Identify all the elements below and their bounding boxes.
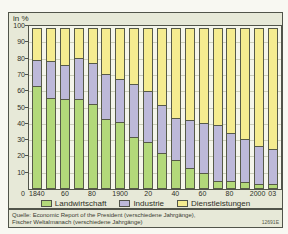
bar-1970-industrie-segment — [213, 125, 223, 182]
x-axis-label-1840: 1840 — [29, 190, 45, 198]
x-axis-label-2000: 2000 — [250, 190, 266, 198]
bar-1980-industrie-segment — [226, 133, 236, 182]
bar-1840 — [32, 28, 42, 189]
y-axis-label-90: 90 — [9, 38, 25, 45]
source-box: Quelle: Economic Report of the President… — [8, 209, 283, 228]
bar-1840-industrie-segment — [32, 60, 42, 88]
bar-1850-dienstleistungen-segment — [46, 28, 56, 62]
x-axis-label-20: 20 — [141, 190, 155, 198]
y-axis-tick-10 — [25, 172, 28, 173]
bar-1930 — [157, 28, 167, 189]
bar-1990 — [240, 28, 250, 189]
bar-1930-industrie-segment — [157, 105, 167, 154]
bar-2000 — [254, 28, 264, 189]
source-line-1: Quelle: Economic Report of the President… — [12, 212, 282, 219]
bar-1930-landwirtschaft-segment — [157, 153, 167, 189]
bar-1870-industrie-segment — [74, 58, 84, 100]
bar-1910 — [129, 28, 139, 189]
bar-slot-1840 — [30, 26, 44, 189]
bar-slot-1850 — [44, 26, 58, 189]
legend-label-landwirtschaft: Landwirtschaft — [55, 199, 107, 208]
bar-slot-1950 — [183, 26, 197, 189]
bar-1990-industrie-segment — [240, 139, 250, 183]
bar-slot-1920 — [141, 26, 155, 189]
x-axis-label-empty — [72, 190, 86, 198]
bar-2000-dienstleistungen-segment — [254, 28, 264, 147]
x-axis-label-empty — [155, 190, 169, 198]
x-axis-label-80: 80 — [85, 190, 99, 198]
bar-1910-industrie-segment — [129, 84, 139, 138]
y-axis-tick-70 — [25, 74, 28, 75]
legend-label-industrie: Industrie — [133, 199, 164, 208]
bar-1890-landwirtschaft-segment — [101, 119, 111, 189]
bar-1930-dienstleistungen-segment — [157, 28, 167, 106]
bar-slot-2000 — [252, 26, 266, 189]
y-axis-tick-40 — [25, 123, 28, 124]
x-axis-label-empty — [182, 190, 196, 198]
bar-1860 — [60, 28, 70, 189]
plot-area — [28, 25, 282, 190]
bar-1850 — [46, 28, 56, 189]
bar-1940-dienstleistungen-segment — [171, 28, 181, 119]
x-axis-labels: 18406080190020406080200003 — [28, 190, 280, 198]
x-axis-label-empty — [128, 190, 142, 198]
bar-1960-landwirtschaft-segment — [199, 173, 209, 189]
bar-1860-dienstleistungen-segment — [60, 28, 70, 65]
legend-item-landwirtschaft: Landwirtschaft — [41, 199, 107, 208]
bar-slot-1880 — [86, 26, 100, 189]
bar-1840-dienstleistungen-segment — [32, 28, 42, 61]
bar-slot-1930 — [155, 26, 169, 189]
legend-label-dienstleistungen: Dienstleistungen — [191, 199, 250, 208]
bar-slot-1860 — [58, 26, 72, 189]
bar-1870-dienstleistungen-segment — [74, 28, 84, 59]
y-axis-label-80: 80 — [9, 55, 25, 62]
bar-1880 — [88, 28, 98, 189]
bar-1920 — [143, 28, 153, 189]
bar-slot-1960 — [197, 26, 211, 189]
bar-1900 — [115, 28, 125, 189]
y-axis-tick-50 — [25, 107, 28, 108]
bar-1980 — [226, 28, 236, 189]
bar-1910-landwirtschaft-segment — [129, 137, 139, 189]
y-axis-label-50: 50 — [9, 104, 25, 111]
bar-1980-dienstleistungen-segment — [226, 28, 236, 134]
x-axis-label-1900: 1900 — [112, 190, 128, 198]
y-axis-label-70: 70 — [9, 71, 25, 78]
y-axis-tick-80 — [25, 58, 28, 59]
bar-1920-landwirtschaft-segment — [143, 142, 153, 189]
plot-bars — [29, 26, 281, 189]
source-line-2: Fischer Weltalmanach (verschiedene Jahrg… — [12, 219, 282, 226]
bar-1890-dienstleistungen-segment — [101, 28, 111, 75]
bar-1920-industrie-segment — [143, 91, 153, 143]
bar-1890 — [101, 28, 111, 189]
bar-slot-1970 — [211, 26, 225, 189]
bar-1880-dienstleistungen-segment — [88, 28, 98, 64]
bar-1900-dienstleistungen-segment — [115, 28, 125, 80]
y-axis-tick-90 — [25, 41, 28, 42]
y-axis-label-60: 60 — [9, 87, 25, 94]
figure-page: in % 1009080706050403020100 184060801900… — [0, 0, 288, 234]
bar-1880-industrie-segment — [88, 63, 98, 105]
bar-slot-1910 — [127, 26, 141, 189]
bar-1880-landwirtschaft-segment — [88, 104, 98, 189]
bar-1960-dienstleistungen-segment — [199, 28, 209, 124]
y-axis-label-20: 20 — [9, 152, 25, 159]
bar-1910-dienstleistungen-segment — [129, 28, 139, 85]
y-axis-tick-60 — [25, 90, 28, 91]
x-axis-label-empty — [99, 190, 113, 198]
bar-slot-1900 — [113, 26, 127, 189]
bar-1970-dienstleistungen-segment — [213, 28, 223, 126]
legend-item-industrie: Industrie — [119, 199, 164, 208]
bar-2000-landwirtschaft-segment — [254, 184, 264, 189]
bar-1850-industrie-segment — [46, 61, 56, 98]
x-axis-label-60: 60 — [196, 190, 210, 198]
bar-1970 — [213, 28, 223, 189]
y-axis-label-30: 30 — [9, 136, 25, 143]
bar-1990-landwirtschaft-segment — [240, 182, 250, 189]
bar-1950-dienstleistungen-segment — [185, 28, 195, 121]
y-axis-label-40: 40 — [9, 120, 25, 127]
bar-2003-dienstleistungen-segment — [268, 28, 278, 150]
bar-1920-dienstleistungen-segment — [143, 28, 153, 92]
y-axis-label-0: 0 — [9, 190, 25, 197]
y-axis-label-10: 10 — [9, 169, 25, 176]
